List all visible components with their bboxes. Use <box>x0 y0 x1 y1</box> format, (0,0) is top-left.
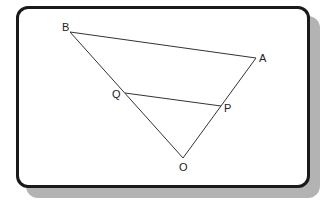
segment-BO <box>70 32 183 158</box>
label-Q: Q <box>112 88 121 100</box>
label-P: P <box>224 102 231 114</box>
segment-QP <box>125 93 221 106</box>
label-O: O <box>179 161 188 173</box>
segment-AO <box>183 58 256 158</box>
triangle-diagram: B A Q P O <box>0 0 333 201</box>
segment-BA <box>70 32 256 58</box>
label-B: B <box>62 21 69 33</box>
label-A: A <box>259 52 267 64</box>
